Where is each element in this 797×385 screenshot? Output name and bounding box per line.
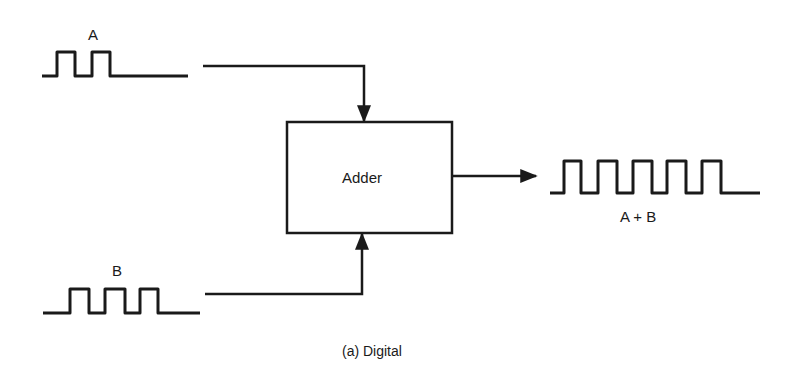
- figure-caption: (a) Digital: [342, 343, 402, 359]
- signal-a-waveform: [42, 52, 188, 76]
- output-label: A + B: [620, 208, 656, 225]
- wire-a-to-adder: [203, 66, 364, 121]
- signal-b-label: B: [112, 262, 122, 279]
- signal-b-waveform: [43, 289, 200, 313]
- wire-b-to-adder: [205, 234, 362, 294]
- adder-diagram: [0, 0, 797, 385]
- signal-a-label: A: [88, 26, 98, 43]
- output-waveform: [550, 161, 760, 193]
- adder-label: Adder: [342, 169, 382, 186]
